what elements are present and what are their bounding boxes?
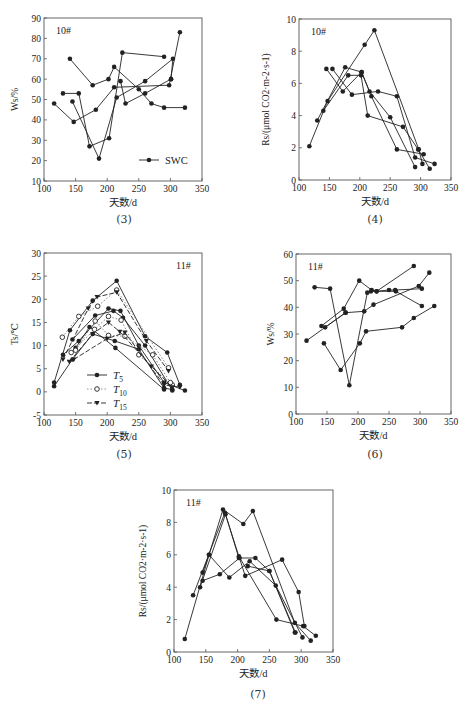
filled-circle-marker	[76, 91, 81, 96]
y-tick-label: 30	[284, 330, 294, 340]
open-circle-marker	[106, 314, 111, 319]
legend: SWC	[139, 155, 188, 166]
filled-circle-marker	[321, 108, 326, 113]
y-tick-label: 0	[36, 387, 41, 397]
series-Rs-b	[315, 65, 426, 157]
filled-circle-marker	[420, 286, 425, 291]
y-tick-label: 30	[32, 249, 42, 259]
filled-circle-marker	[198, 585, 203, 590]
filled-circle-marker	[87, 144, 92, 149]
filled-circle-marker	[328, 286, 333, 291]
filled-circle-marker	[241, 522, 246, 527]
y-tick-label: 20	[32, 295, 42, 305]
filled-circle-marker	[113, 346, 118, 351]
series-Rs-e	[330, 67, 437, 167]
x-tick-label: 250	[132, 184, 147, 194]
caption-4: (4)	[345, 213, 405, 226]
open-circle-marker	[119, 318, 124, 323]
filled-circle-marker	[162, 387, 167, 392]
filled-circle-marker	[169, 77, 174, 82]
triangle-marker	[166, 369, 171, 374]
filled-circle-marker	[312, 285, 317, 290]
filled-circle-marker	[68, 56, 73, 61]
y-tick-label: 5	[36, 364, 41, 374]
x-tick-label: 350	[326, 655, 341, 665]
x-tick-label: 200	[351, 417, 366, 427]
filled-circle-marker	[217, 572, 222, 577]
filled-circle-marker	[346, 73, 351, 78]
x-tick-label: 350	[195, 418, 210, 428]
y-axis-label: Ts/℃	[10, 323, 20, 345]
filled-circle-marker	[364, 329, 369, 334]
filled-circle-marker	[90, 83, 95, 88]
series-SWC-a	[52, 30, 182, 124]
series-SWC-c	[319, 264, 416, 329]
filled-circle-marker	[343, 65, 348, 70]
filled-circle-marker	[106, 77, 111, 82]
filled-circle-marker	[120, 50, 125, 55]
filled-circle-marker	[207, 553, 212, 558]
filled-circle-marker	[52, 101, 57, 106]
series-SWC-b	[312, 285, 424, 387]
caption-7: (7)	[228, 688, 288, 701]
filled-circle-marker	[420, 304, 425, 309]
y-tick-label: 30	[32, 136, 42, 146]
open-circle-marker	[92, 327, 97, 332]
y-tick-label: 8	[166, 518, 171, 528]
legend: T5T10T15	[87, 369, 127, 412]
y-tick-label: 4	[291, 111, 296, 121]
filled-circle-marker	[395, 94, 400, 99]
filled-circle-marker	[412, 264, 417, 269]
filled-circle-marker	[358, 341, 363, 346]
x-tick-label: 150	[68, 184, 83, 194]
y-tick-label: 6	[291, 79, 296, 89]
y-tick-label: 70	[32, 54, 42, 64]
site-label: 11#	[186, 497, 201, 508]
filled-circle-marker	[149, 101, 154, 106]
filled-circle-marker	[432, 162, 437, 167]
caption-3: (3)	[94, 213, 154, 226]
filled-circle-marker	[413, 165, 418, 170]
site-label: 11#	[176, 260, 191, 271]
y-tick-label: 25	[32, 272, 42, 282]
filled-circle-marker	[420, 162, 425, 167]
chart-4: 1001502002503003500246810天数/dRs/(μmol CO…	[261, 15, 458, 208]
filled-circle-marker	[280, 557, 285, 562]
filled-circle-marker	[340, 89, 345, 94]
open-circle-marker	[95, 304, 100, 309]
filled-circle-marker	[200, 570, 205, 575]
x-tick-label: 300	[294, 655, 309, 665]
filled-circle-marker	[107, 136, 112, 141]
filled-circle-marker	[371, 302, 376, 307]
filled-circle-marker	[114, 95, 119, 100]
x-tick-label: 200	[230, 655, 245, 665]
filled-circle-marker	[112, 85, 117, 90]
y-tick-label: -5	[33, 411, 41, 421]
filled-circle-marker	[143, 91, 148, 96]
series-Rs-e	[200, 553, 304, 640]
triangle-marker	[114, 290, 119, 295]
y-tick-label: 10	[162, 486, 172, 496]
filled-circle-marker	[357, 278, 362, 283]
filled-circle-marker	[147, 158, 152, 163]
filled-circle-marker	[416, 147, 421, 152]
x-tick-label: 300	[413, 417, 428, 427]
filled-circle-marker	[106, 306, 111, 311]
figure-canvas: 100150200250300350102030405060708090天数/d…	[0, 0, 474, 725]
legend-label: SWC	[165, 155, 188, 166]
filled-circle-marker	[369, 288, 374, 293]
x-tick-label: 350	[195, 184, 210, 194]
open-circle-marker	[95, 387, 100, 392]
filled-circle-marker	[111, 309, 116, 314]
x-tick-label: 350	[444, 183, 459, 193]
y-tick-label: 0	[291, 176, 296, 186]
filled-circle-marker	[137, 87, 142, 92]
filled-circle-marker	[68, 328, 73, 333]
x-tick-label: 300	[163, 418, 178, 428]
filled-circle-marker	[400, 325, 405, 330]
open-circle-marker	[69, 350, 74, 355]
x-tick-label: 200	[100, 418, 115, 428]
filled-circle-marker	[324, 67, 329, 72]
chart-3: 100150200250300350102030405060708090天数/d…	[10, 14, 209, 209]
open-circle-marker	[150, 353, 155, 358]
